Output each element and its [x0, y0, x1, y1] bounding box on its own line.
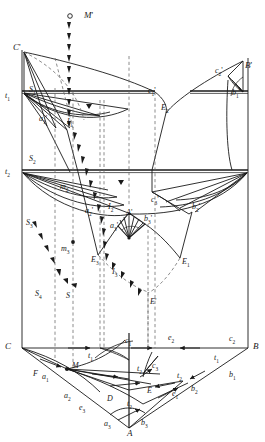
t1-horizon [22, 91, 248, 93]
dashed-projection-lines [24, 52, 180, 366]
label-subscript: 1 [187, 262, 190, 268]
label-prime: ' [239, 88, 240, 97]
label-D: D [107, 395, 113, 403]
label-subscript: 3 [145, 423, 148, 429]
label-S4: S4 [35, 290, 42, 300]
label-t2-lower: t2 [127, 400, 132, 410]
label-b3-base: b3 [141, 419, 148, 429]
label-t1-mid-left: t1 [88, 352, 93, 362]
label-B-base: B [253, 342, 259, 351]
label-a3-base: a3 [104, 420, 111, 430]
label-E-base: E [147, 387, 152, 395]
chain-S3-S4 [32, 221, 77, 288]
label-S-plain: S [66, 292, 70, 300]
solid-construction-lines [22, 50, 248, 428]
label-b1-prime: b1' [232, 89, 240, 99]
label-prime: ' [151, 214, 152, 223]
label-subscript: 2 [7, 172, 10, 178]
label-subscript: 2 [33, 159, 36, 165]
label-subscript: 3 [156, 366, 159, 372]
label-subscript: 2 [68, 396, 71, 402]
label-subscript: 1 [46, 377, 49, 383]
label-prime: ' [46, 114, 47, 123]
label-subscript: 1 [7, 96, 10, 102]
label-prime: ' [154, 86, 155, 95]
label-subscript: 4 [39, 294, 42, 300]
base-flow-arrows [40, 348, 205, 420]
label-prime: ' [117, 221, 118, 230]
t2-horizon [22, 170, 248, 173]
label-subscript: 2 [66, 187, 69, 193]
label-c2-prime-upper: c2' [215, 67, 223, 77]
lower-wings [78, 172, 192, 258]
label-prime: ' [221, 66, 222, 75]
label-c3-base: c3 [152, 362, 158, 372]
label-t2-left: t2 [5, 168, 10, 178]
label-prime: ' [155, 297, 156, 306]
label-C-prime: C' [13, 43, 21, 52]
label-b1-base: b1 [229, 371, 236, 381]
label-b2-base: b2 [191, 385, 198, 395]
label-F: F [33, 370, 38, 378]
label-a1-base: a1 [42, 373, 49, 383]
label-S2: S2 [29, 155, 36, 165]
label-c1-prime: c1' [148, 87, 156, 97]
label-subscript: 1 [129, 341, 132, 347]
label-e3-base: e3 [79, 404, 85, 414]
label-subscript: 2 [166, 108, 169, 114]
right-upper-wing [152, 61, 243, 170]
label-a2-base: a2 [64, 392, 71, 402]
label-subscript: 2 [129, 404, 132, 410]
label-t1-mid-right: t1 [214, 354, 219, 364]
label-subscript: 2 [172, 338, 175, 344]
label-prime: ' [19, 42, 21, 52]
label-c2-base: c2 [229, 335, 235, 345]
label-subscript: 1 [90, 356, 93, 362]
label-b3-prime: b3' [144, 215, 152, 225]
diagram-svg [0, 0, 265, 442]
label-subscript: 3 [96, 260, 99, 266]
label-I1: I1 [67, 118, 72, 128]
label-m3: m3 [61, 245, 69, 255]
label-subscript: 1 [176, 394, 179, 400]
label-prime: ' [92, 10, 94, 20]
label-a2-prime: a2' [85, 207, 93, 217]
label-subscript: 2 [179, 376, 182, 382]
label-M-prime: M' [84, 11, 93, 20]
label-e1-base: e1 [172, 390, 178, 400]
label-b2-prime: b2' [192, 203, 200, 213]
label-prime: ' [199, 202, 200, 211]
label-subscript: 3 [83, 408, 86, 414]
label-I2: I2 [108, 203, 113, 213]
label-E1: E1 [182, 258, 190, 268]
label-subscript: 2 [195, 389, 198, 395]
label-A-base: A [127, 429, 133, 438]
label-subscript: 2 [111, 207, 114, 213]
label-subscript: 3 [108, 424, 111, 430]
label-c3-prime: c3' [151, 196, 159, 206]
label-t2-right: t2 [177, 372, 182, 382]
label-prime: ' [131, 208, 132, 217]
label-subscript: 1 [233, 375, 236, 381]
figure-canvas: M'C'B't1S1c1'c2'b1'a1'I1E2t2S2m2c3'b2'a2… [0, 0, 265, 442]
label-A-prime: A' [126, 209, 132, 217]
label-subscript: 1 [70, 122, 73, 128]
chain-E-prime [105, 253, 142, 296]
label-E3: E3 [91, 256, 99, 266]
label-prime: ' [92, 206, 93, 215]
outer-frame [22, 50, 248, 428]
label-c1-base: c1 [125, 337, 131, 347]
label-subscript: 2 [233, 339, 236, 345]
label-t1-upper: t1 [5, 92, 10, 102]
label-subscript: 3 [115, 272, 118, 278]
label-subscript: 2 [139, 369, 142, 375]
label-m2: m2 [60, 183, 68, 193]
label-E2: E2 [161, 104, 169, 114]
label-M-base: M [72, 362, 79, 370]
label-C-base: C [5, 342, 11, 351]
label-prime: ' [251, 60, 253, 70]
upper-left-cone [24, 52, 155, 172]
label-prime: ' [157, 195, 158, 204]
base-plane-web [22, 340, 188, 428]
label-e2-base: e2 [168, 334, 174, 344]
